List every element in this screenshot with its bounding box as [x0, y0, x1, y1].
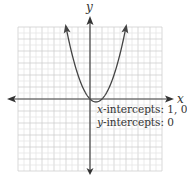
y-axis-label: y [85, 0, 93, 14]
x-intercepts-annotation: x-intercepts: 1, 0 [97, 103, 187, 115]
y-intercepts-text: -intercepts: 0 [103, 116, 174, 128]
y-intercepts-annotation: y-intercepts: 0 [96, 116, 174, 128]
parabola-graph: x y x-intercepts: 1, 0 y-intercepts: 0 [0, 0, 187, 175]
x-intercepts-text: -intercepts: 1, 0 [103, 103, 187, 115]
axes [7, 16, 174, 175]
